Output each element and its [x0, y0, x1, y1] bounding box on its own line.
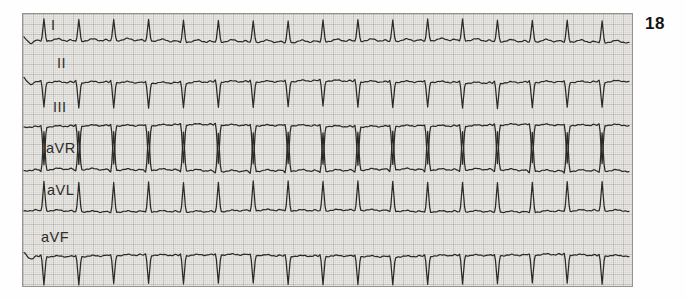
- book-page: I II III aVR aVL aVF 18: [0, 0, 686, 301]
- lead-label-aVF: aVF: [41, 230, 69, 245]
- lead-label-II: II: [57, 56, 66, 71]
- ecg-trace-I: [24, 19, 629, 44]
- lead-label-aVL: aVL: [47, 183, 74, 198]
- ecg-trace-canvas: [23, 14, 632, 286]
- lead-label-aVR: aVR: [46, 141, 76, 156]
- ecg-trace-aVR: [24, 131, 629, 173]
- ecg-paper: I II III aVR aVL aVF: [22, 13, 633, 287]
- ecg-trace-aVL: [24, 181, 629, 213]
- lead-label-III: III: [53, 100, 67, 115]
- figure-number: 18: [645, 14, 665, 34]
- lead-label-I: I: [51, 18, 56, 33]
- ecg-trace-aVF: [24, 253, 629, 285]
- ecg-trace-II: [24, 77, 629, 108]
